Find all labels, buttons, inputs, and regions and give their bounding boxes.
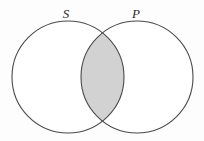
venn-diagram-canvas: S P xyxy=(0,0,204,141)
set-label-s: S xyxy=(63,6,70,21)
venn-diagram-figure: S P xyxy=(0,0,204,141)
set-label-p: P xyxy=(131,6,140,21)
